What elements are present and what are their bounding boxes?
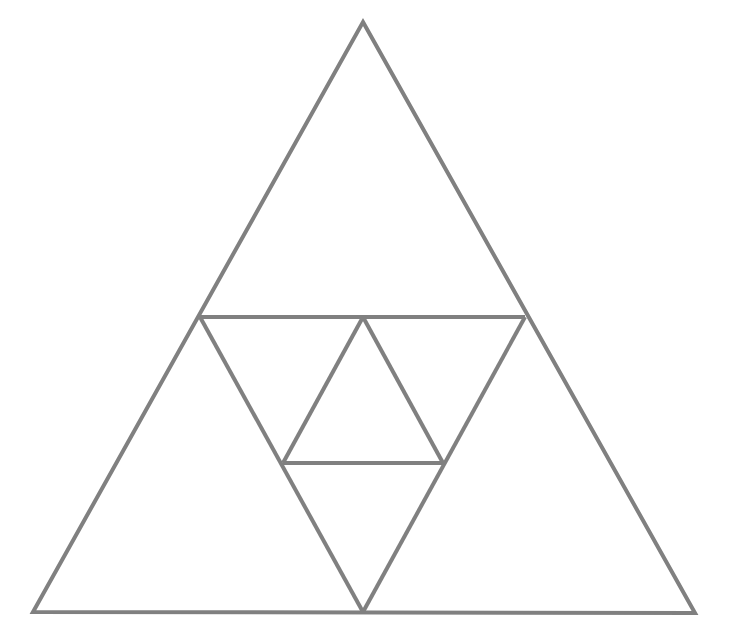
- inner-upward-triangle-left-edge: [283, 317, 363, 463]
- inner-upward-triangle-right-edge: [363, 317, 443, 463]
- figure-canvas: [0, 0, 730, 628]
- nested-triangles-figure: [0, 0, 730, 628]
